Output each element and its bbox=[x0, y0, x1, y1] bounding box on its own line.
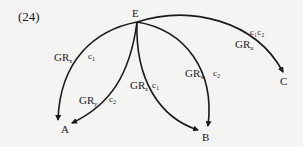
example-number: (24) bbox=[18, 10, 40, 23]
edge-label-gr-y: GRy bbox=[79, 95, 97, 107]
node-c: C bbox=[280, 76, 287, 87]
edge-label-c-z: c1 bbox=[152, 81, 159, 91]
node-a: A bbox=[61, 124, 69, 135]
c-subscript: 2 bbox=[113, 99, 116, 105]
node-b: B bbox=[202, 132, 209, 143]
edge-e-a-y bbox=[72, 22, 137, 123]
gr-subscript: y bbox=[94, 101, 97, 107]
edge-e-c-u bbox=[137, 15, 283, 72]
gr-subscript: z bbox=[145, 86, 148, 92]
edge-label-c-w: c2 bbox=[213, 69, 220, 79]
gr-subscript: x bbox=[69, 58, 72, 64]
node-e: E bbox=[132, 8, 139, 19]
gr-subscript: u bbox=[250, 45, 253, 51]
c-subscript: 1 bbox=[92, 56, 95, 62]
gr-text: GR bbox=[79, 94, 94, 106]
gr-text: GR bbox=[185, 67, 200, 79]
c-subscript: 1 bbox=[156, 85, 159, 91]
diagram-canvas: (24) E A B C GRx c1 GRy c2 GRz c1 GRw c2… bbox=[0, 0, 303, 147]
gr-text: GR bbox=[235, 38, 250, 50]
edge-label-gr-x: GRx bbox=[54, 52, 72, 64]
gr-text: GR bbox=[54, 51, 69, 63]
c-text: c₁c₂ bbox=[250, 27, 264, 37]
edge-label-c-x: c1 bbox=[88, 52, 95, 62]
edge-label-c-u: c₁c₂ bbox=[250, 28, 264, 38]
edge-e-a-x bbox=[58, 22, 137, 120]
gr-text: GR bbox=[130, 79, 145, 91]
edge-label-gr-u: GRu bbox=[235, 39, 253, 51]
edge-label-gr-w: GRw bbox=[185, 68, 205, 80]
edge-label-c-y: c2 bbox=[109, 95, 116, 105]
c-subscript: 2 bbox=[217, 73, 220, 79]
edge-label-gr-z: GRz bbox=[130, 80, 148, 92]
edges-layer bbox=[0, 0, 303, 147]
gr-subscript: w bbox=[200, 74, 204, 80]
